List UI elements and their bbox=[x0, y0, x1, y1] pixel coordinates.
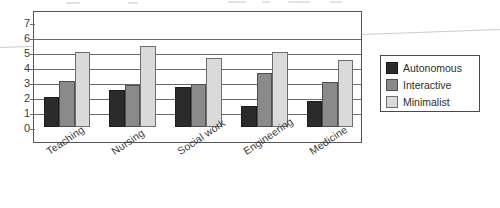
bar-group bbox=[34, 12, 100, 142]
y-tick-label: 2 bbox=[12, 93, 30, 104]
bar[interactable] bbox=[75, 52, 91, 127]
bar[interactable] bbox=[191, 84, 207, 128]
bar[interactable] bbox=[307, 101, 323, 127]
y-tick-label: 1 bbox=[12, 108, 30, 119]
bar[interactable] bbox=[59, 81, 75, 128]
legend-label: Interactive bbox=[403, 79, 451, 91]
legend: AutonomousInteractiveMinimalist bbox=[380, 55, 480, 112]
bar[interactable] bbox=[338, 60, 354, 128]
bar-group bbox=[297, 12, 363, 142]
bar[interactable] bbox=[322, 82, 338, 127]
scan-artifact-smudge bbox=[128, 2, 138, 4]
y-tick-label: 0 bbox=[12, 123, 30, 134]
scan-artifact-smudge bbox=[330, 1, 342, 3]
y-tick-label: 3 bbox=[12, 78, 30, 89]
legend-item[interactable]: Interactive bbox=[386, 77, 479, 93]
y-axis: 76543210 bbox=[12, 0, 30, 208]
bar[interactable] bbox=[44, 97, 60, 127]
y-tick-label: 7 bbox=[12, 18, 30, 29]
bar[interactable] bbox=[175, 87, 191, 128]
bar-group bbox=[100, 12, 166, 142]
plot-area bbox=[33, 11, 362, 143]
legend-item[interactable]: Minimalist bbox=[386, 94, 479, 110]
legend-item[interactable]: Autonomous bbox=[386, 60, 479, 76]
legend-label: Autonomous bbox=[403, 62, 462, 74]
scan-artifact-smudge bbox=[262, 1, 270, 3]
bar[interactable] bbox=[140, 46, 156, 127]
scan-artifact-smudge bbox=[66, 2, 80, 4]
bars-layer bbox=[34, 12, 361, 142]
legend-swatch-icon bbox=[386, 96, 398, 108]
bar[interactable] bbox=[125, 85, 141, 127]
legend-swatch-icon bbox=[386, 79, 398, 91]
y-tick-label: 6 bbox=[12, 33, 30, 44]
y-tick-label: 4 bbox=[12, 63, 30, 74]
x-axis: TeachingNursingSocial workEngineeringMed… bbox=[33, 143, 362, 208]
scan-artifact-smudge bbox=[228, 1, 246, 3]
bar[interactable] bbox=[109, 90, 125, 128]
bar[interactable] bbox=[257, 73, 273, 127]
bar[interactable] bbox=[241, 106, 257, 127]
scan-artifact-smudge bbox=[288, 1, 310, 3]
y-tick-label: 5 bbox=[12, 48, 30, 59]
legend-swatch-icon bbox=[386, 62, 398, 74]
legend-label: Minimalist bbox=[403, 96, 450, 108]
